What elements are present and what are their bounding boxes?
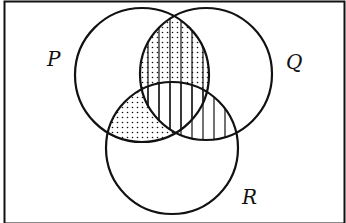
venn-diagram: P Q R <box>0 0 346 223</box>
label-r: R <box>241 185 257 209</box>
label-q: Q <box>286 50 302 74</box>
label-p: P <box>46 47 61 71</box>
